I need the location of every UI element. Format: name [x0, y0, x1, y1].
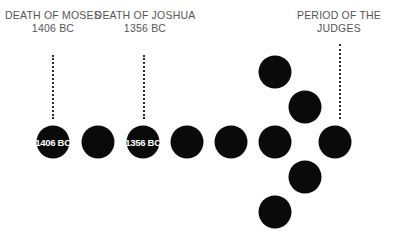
timeline-circle-judges [319, 126, 352, 159]
timeline-circle [215, 126, 248, 159]
circle-label-1356bc: 1356 BC [125, 137, 160, 148]
branch-circle-upper-mid [289, 91, 322, 124]
label-judges-line2: JUDGES [297, 22, 381, 35]
timeline-circle [171, 126, 204, 159]
label-moses-date: 1406 BC [5, 22, 101, 35]
timeline-circle-1406bc: 1406 BC [37, 126, 70, 159]
label-judges-line1: PERIOD OF THE [297, 9, 381, 22]
label-joshua-date: 1356 BC [95, 22, 196, 35]
branch-circle-upper [259, 56, 292, 89]
dotted-connector-moses [52, 55, 54, 119]
circle-label-1406bc: 1406 BC [35, 137, 70, 148]
timeline-circle-1356bc: 1356 BC [127, 126, 160, 159]
label-moses-title: DEATH OF MOSES [5, 9, 101, 22]
dotted-connector-joshua [143, 55, 145, 119]
label-joshua-title: DEATH OF JOSHUA [95, 9, 196, 22]
label-death-of-joshua: DEATH OF JOSHUA 1356 BC [95, 9, 196, 35]
dotted-connector-judges [339, 44, 341, 119]
timeline-circle [82, 126, 115, 159]
branch-circle-lower [259, 196, 292, 229]
label-death-of-moses: DEATH OF MOSES 1406 BC [5, 9, 101, 35]
branch-circle-lower-mid [289, 161, 322, 194]
timeline-circle [259, 126, 292, 159]
label-period-of-judges: PERIOD OF THE JUDGES [297, 9, 381, 35]
